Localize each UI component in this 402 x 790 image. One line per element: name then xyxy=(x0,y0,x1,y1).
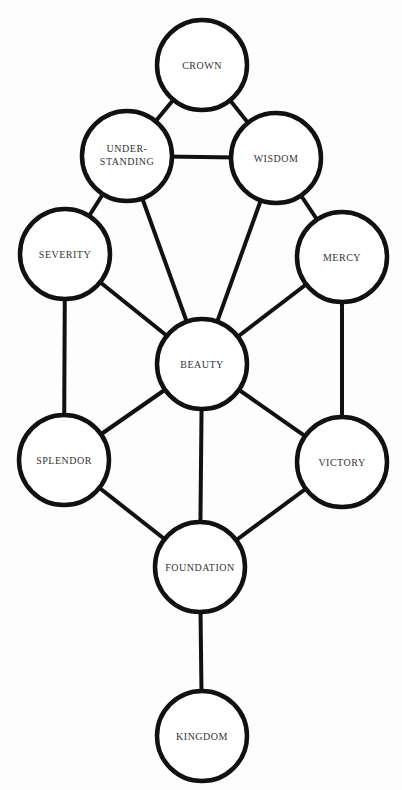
node-foundation: FOUNDATION xyxy=(155,522,245,612)
tree-of-life-diagram: CROWNUNDER-STANDINGWISDOMSEVERITYMERCYBE… xyxy=(0,0,402,790)
node-kingdom: KINGDOM xyxy=(157,691,247,781)
node-label: UNDER- xyxy=(107,143,148,154)
node-label: BEAUTY xyxy=(180,359,224,370)
node-label: SPLENDOR xyxy=(36,455,92,466)
node-label: FOUNDATION xyxy=(165,562,234,573)
node-wisdom: WISDOM xyxy=(231,113,321,203)
node-beauty: BEAUTY xyxy=(157,319,247,409)
node-severity: SEVERITY xyxy=(20,209,110,299)
node-understanding: UNDER-STANDING xyxy=(82,111,172,201)
node-label: CROWN xyxy=(182,60,222,71)
node-victory: VICTORY xyxy=(297,417,387,507)
node-label: KINGDOM xyxy=(176,731,228,742)
node-label: MERCY xyxy=(323,252,361,263)
node-crown: CROWN xyxy=(157,20,247,110)
node-label: WISDOM xyxy=(254,153,299,164)
node-label: STANDING xyxy=(100,156,154,167)
node-splendor: SPLENDOR xyxy=(19,415,109,505)
node-label: SEVERITY xyxy=(39,249,91,260)
node-label: VICTORY xyxy=(318,457,365,468)
node-mercy: MERCY xyxy=(297,212,387,302)
